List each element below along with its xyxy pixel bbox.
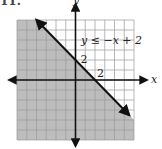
y-axis-label: y <box>73 0 79 6</box>
inequality-label: y ≤ −x + 2 <box>81 35 142 46</box>
x-axis-label: x <box>151 74 157 85</box>
y-intercept-label: 2 <box>81 54 88 65</box>
x-intercept-label: 2 <box>97 68 104 79</box>
inequality-graph <box>0 0 162 149</box>
